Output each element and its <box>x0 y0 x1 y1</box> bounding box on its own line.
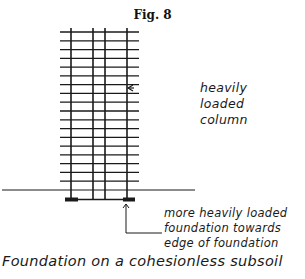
label-line: loaded <box>200 96 248 112</box>
column-lines <box>71 28 127 199</box>
column-load-arrow-icon <box>128 85 134 91</box>
label-line: column <box>200 112 248 128</box>
foundation-leader-arrow-icon <box>123 204 162 233</box>
figure-caption: Foundation on a cohesionless subsoil <box>2 253 283 269</box>
label-line: heavily <box>200 80 248 96</box>
heavily-loaded-column-label: heavily loaded column <box>200 80 248 128</box>
label-line: more heavily loaded <box>164 206 287 221</box>
left-footing <box>65 198 78 202</box>
label-line: edge of foundation <box>164 236 287 251</box>
heavily-loaded-foundation-label: more heavily loaded foundation towards e… <box>164 206 287 251</box>
label-line: foundation towards <box>164 221 287 236</box>
right-footing <box>123 198 135 202</box>
